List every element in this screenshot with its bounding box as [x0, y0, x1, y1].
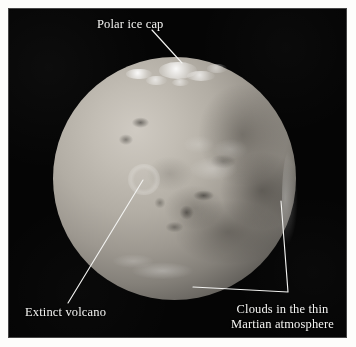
photograph-plate: [8, 8, 347, 338]
label-polar-ice-cap: Polar ice cap: [97, 17, 164, 32]
mars-disk: [53, 57, 296, 300]
label-extinct-volcano: Extinct volcano: [25, 305, 106, 320]
planet-limb-clouds: [282, 149, 298, 246]
ice-patch: [207, 64, 227, 72]
ice-patch: [172, 79, 190, 86]
label-clouds-line-1: Clouds in the thin: [237, 302, 329, 316]
mars-figure: Polar ice cap Extinct volcano Clouds in …: [0, 0, 356, 347]
ice-patch: [146, 76, 166, 85]
label-clouds-line-2: Martian atmosphere: [231, 317, 334, 332]
ice-patch: [187, 71, 215, 81]
polar-ice-cap-feature: [116, 55, 242, 96]
label-clouds: Clouds in the thin Martian atmosphere: [231, 302, 334, 331]
extinct-volcano-feature: [128, 164, 160, 196]
